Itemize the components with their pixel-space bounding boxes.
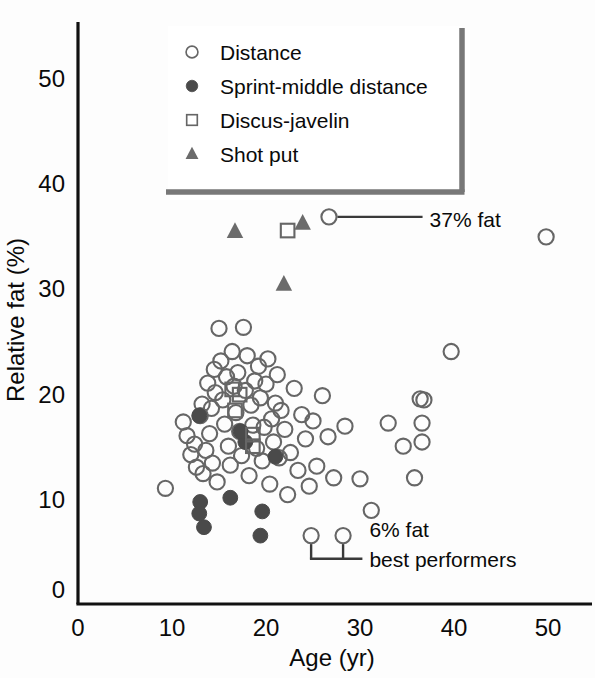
legend-label: Shot put [220,143,298,166]
x-tick-label: 20 [253,614,280,641]
y-tick-label: 30 [38,275,65,302]
x-tick-label: 50 [535,614,562,641]
y-axis-title: Relative fat (%) [2,238,29,402]
data-point-filled-circle [255,504,270,519]
x-tick-label: 40 [441,614,468,641]
legend-label: Sprint-middle distance [220,75,428,98]
y-tick-label: 40 [38,170,65,197]
annotation-label-37-fat: 37% fat [430,208,501,231]
legend-label: Distance [220,41,302,64]
data-point-filled-circle [223,490,238,505]
x-tick-label: 0 [71,614,84,641]
annotation-label-6-fat: 6% fat [369,518,429,541]
data-point-filled-circle [268,449,283,464]
data-point-filled-circle [253,528,268,543]
y-tick-label: 10 [38,486,65,513]
data-point-filled-circle [197,520,212,535]
data-point-filled-circle [192,506,207,521]
x-axis-title: Age (yr) [289,644,374,671]
legend[interactable]: DistanceSprint-middle distanceDiscus-jav… [166,26,465,192]
y-tick-label: 20 [38,381,65,408]
y-tick-label: 50 [38,65,65,92]
legend-marker-filled-circle [186,80,198,92]
x-tick-label: 10 [159,614,186,641]
chart-figure: 0102030405001020304050 37% fat6% fatbest… [0,0,595,678]
legend-label: Discus-javelin [220,109,350,132]
scatter-plot: 0102030405001020304050 37% fat6% fatbest… [0,0,595,678]
annotation-label-best-performers: best performers [369,548,516,571]
x-tick-label: 30 [347,614,374,641]
y-tick-label: 0 [52,576,65,603]
data-point-filled-circle [192,408,207,423]
legend-item-sprint-middle-distance[interactable]: Sprint-middle distance [186,75,428,98]
